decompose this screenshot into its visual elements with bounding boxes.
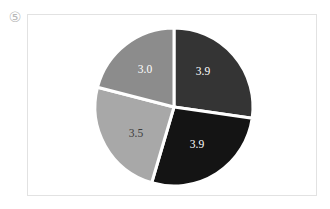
circled-number-5-icon: ⑤ (6, 8, 24, 26)
pie-chart-svg: 3.93.93.53.0 (28, 15, 316, 195)
slice-top-right-label: 3.9 (196, 65, 211, 77)
slice-top-left-label: 3.0 (138, 63, 153, 75)
slice-bottom-left-label: 3.5 (129, 127, 144, 139)
slice-bottom-right-label: 3.9 (190, 138, 205, 150)
pie-chart: 3.93.93.53.0 (28, 15, 316, 195)
chart-panel: 3.93.93.53.0 (27, 14, 317, 196)
screenshot-root: ⑤ 3.93.93.53.0 (0, 0, 330, 209)
pie-slice-group (95, 28, 253, 186)
slice-top-right[interactable] (174, 28, 253, 118)
